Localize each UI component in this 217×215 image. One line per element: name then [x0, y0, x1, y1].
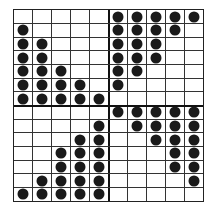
grid-dot [94, 134, 105, 145]
grid-dot [169, 148, 180, 159]
grid-dot [188, 107, 199, 118]
grid-dot [112, 107, 123, 118]
grid-dot [94, 189, 105, 200]
grid-dot [37, 93, 48, 104]
grid-dot [188, 148, 199, 159]
grid-dot [75, 189, 86, 200]
grid-dot [131, 107, 142, 118]
grid-dot [112, 66, 123, 77]
grid-dot [131, 11, 142, 22]
grid-dot [37, 39, 48, 50]
grid-dot [56, 80, 67, 91]
grid-dot [94, 120, 105, 131]
grid-dot [169, 25, 180, 36]
grid-dot [169, 120, 180, 131]
grid-dot [169, 11, 180, 22]
grid-dot [18, 39, 29, 50]
grid-dot [18, 80, 29, 91]
grid-dot [75, 161, 86, 172]
grid-dot [150, 120, 161, 131]
grid-dot [188, 11, 199, 22]
grid-dot [112, 25, 123, 36]
grid-dot [188, 175, 199, 186]
grid-dot [75, 134, 86, 145]
grid-dot [150, 25, 161, 36]
grid-dot [94, 93, 105, 104]
grid-dot [37, 52, 48, 63]
grid-dot [18, 189, 29, 200]
grid-dot [150, 11, 161, 22]
grid-dot [37, 175, 48, 186]
grid-dot [150, 39, 161, 50]
dot-grid-diagram [13, 9, 204, 202]
grid-dot [37, 80, 48, 91]
grid-dot [188, 134, 199, 145]
grid-dot [131, 66, 142, 77]
grid-dot [150, 134, 161, 145]
grid-dot [18, 25, 29, 36]
grid-dot [75, 148, 86, 159]
grid-dot [37, 66, 48, 77]
grid-dot [56, 93, 67, 104]
grid-dot [188, 161, 199, 172]
grid-dot [112, 80, 123, 91]
grid-dot [169, 161, 180, 172]
grid-dot [131, 120, 142, 131]
grid-dot [18, 52, 29, 63]
grid-dot [131, 25, 142, 36]
grid-dot [94, 161, 105, 172]
grid-dot [94, 148, 105, 159]
grid-dot [75, 175, 86, 186]
grid-dot [150, 52, 161, 63]
grid-dot [75, 80, 86, 91]
grid-dot [56, 148, 67, 159]
grid-dot [131, 39, 142, 50]
grid-dot [56, 175, 67, 186]
grid-dot [112, 11, 123, 22]
grid-dot [169, 107, 180, 118]
grid-dot [112, 52, 123, 63]
grid-dot [56, 66, 67, 77]
grid-dot [37, 189, 48, 200]
grid-dot [150, 107, 161, 118]
grid-dot [188, 120, 199, 131]
grid-dot [56, 189, 67, 200]
grid-dot [94, 175, 105, 186]
grid-dot [169, 134, 180, 145]
grid-dot [131, 52, 142, 63]
grid-dot [112, 39, 123, 50]
grid-dot [75, 93, 86, 104]
grid-dot [18, 93, 29, 104]
grid-dot [56, 161, 67, 172]
grid-dot [18, 66, 29, 77]
